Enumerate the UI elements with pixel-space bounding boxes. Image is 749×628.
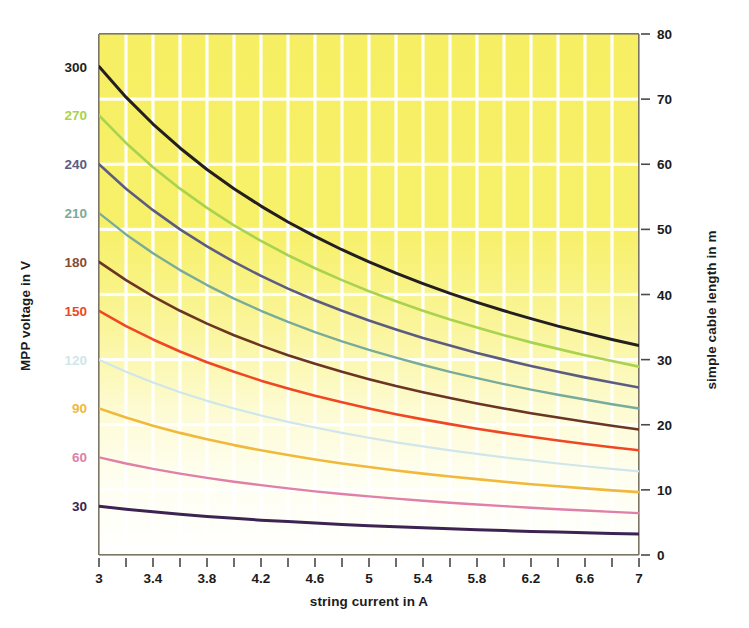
x-axis-tick (152, 558, 154, 567)
x-axis-tick (341, 558, 343, 567)
x-axis-tick (638, 558, 640, 567)
y2-tick-label: 30 (657, 353, 672, 368)
x-axis-tick (287, 558, 289, 567)
x-axis-tick (530, 558, 532, 567)
x-axis-tick (206, 558, 208, 567)
x-tick-label: 5 (365, 571, 373, 586)
x-axis-tick (395, 558, 397, 567)
x-tick-label: 3 (95, 571, 103, 586)
plot-border-bottom (99, 554, 639, 556)
x-tick-label: 4.2 (252, 571, 271, 586)
x-tick-label: 7 (635, 571, 643, 586)
x-axis-tick (449, 558, 451, 567)
chart-svg: 33.43.84.24.655.45.86.26.67 306090120150… (0, 0, 749, 628)
y2-axis-tick (641, 98, 650, 100)
x-axis: 33.43.84.24.655.45.86.26.67 (95, 558, 643, 586)
x-axis-tick (368, 558, 370, 567)
y2-axis-tick (641, 489, 650, 491)
y2-axis-tick (641, 554, 650, 556)
y-axis-right: 01020304050607080 (641, 27, 672, 563)
y2-axis-tick (641, 229, 650, 231)
y2-tick-label: 70 (657, 92, 672, 107)
y2-tick-label: 0 (657, 548, 665, 563)
y-tick-label: 150 (64, 304, 87, 319)
x-axis-tick (179, 558, 181, 567)
x-axis-tick (125, 558, 127, 567)
x-tick-label: 6.2 (522, 571, 541, 586)
x-axis-tick (476, 558, 478, 567)
plot-border-left (98, 34, 100, 555)
y-tick-label: 300 (64, 60, 87, 75)
y-axis-title: MPP voltage in V (18, 261, 33, 371)
gridline-horizontal (99, 358, 639, 361)
y-tick-label: 30 (72, 499, 87, 514)
y2-axis-tick (641, 163, 650, 165)
y2-axis-tick (641, 359, 650, 361)
x-tick-label: 5.8 (468, 571, 487, 586)
y-tick-label: 120 (64, 353, 87, 368)
x-axis-tick (611, 558, 613, 567)
x-axis-tick (233, 558, 235, 567)
y2-axis-title: simple cable length in m (704, 230, 719, 389)
plot-border-top (99, 33, 639, 35)
x-axis-tick (557, 558, 559, 567)
x-tick-label: 4.6 (306, 571, 325, 586)
x-tick-label: 3.8 (198, 571, 217, 586)
y2-axis-tick (641, 294, 650, 296)
x-tick-label: 3.4 (144, 571, 163, 586)
y-tick-label: 270 (64, 108, 87, 123)
chart-figure: 33.43.84.24.655.45.86.26.67 306090120150… (0, 0, 749, 628)
x-axis-tick (260, 558, 262, 567)
y2-tick-label: 20 (657, 418, 672, 433)
y-tick-label: 90 (72, 401, 87, 416)
gridline-horizontal (99, 98, 639, 101)
x-axis-tick (98, 558, 100, 567)
plot-border-right (638, 34, 640, 555)
y2-tick-label: 60 (657, 157, 672, 172)
gridline-horizontal (99, 293, 639, 296)
y2-tick-label: 50 (657, 222, 672, 237)
x-tick-label: 6.6 (576, 571, 595, 586)
x-tick-label: 5.4 (414, 571, 433, 586)
y-tick-label: 180 (64, 255, 87, 270)
y2-tick-label: 10 (657, 483, 672, 498)
y-tick-label: 60 (72, 450, 87, 465)
x-axis-tick (422, 558, 424, 567)
y2-tick-label: 40 (657, 288, 672, 303)
x-axis-tick (503, 558, 505, 567)
y2-axis-tick (641, 424, 650, 426)
y2-tick-label: 80 (657, 27, 672, 42)
gridline-horizontal (99, 423, 639, 426)
y-tick-label: 210 (64, 206, 87, 221)
y2-axis-tick (641, 33, 650, 35)
y-tick-label: 240 (64, 157, 87, 172)
x-axis-title: string current in A (310, 594, 429, 609)
x-axis-tick (584, 558, 586, 567)
x-axis-tick (314, 558, 316, 567)
gridline-horizontal (99, 163, 639, 166)
gridline-horizontal (99, 488, 639, 491)
y-axis-left: 306090120150180210240270300 (64, 60, 87, 515)
